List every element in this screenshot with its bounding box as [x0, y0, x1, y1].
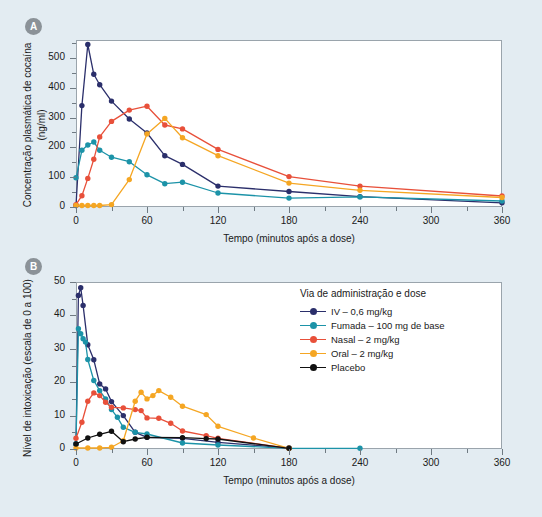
y-tick-major — [70, 58, 76, 59]
data-point — [204, 436, 209, 441]
panel-a: A Concentração plasmática de cocaína (ng… — [0, 0, 542, 256]
x-tick-label: 300 — [413, 215, 449, 226]
y-tick-label: 0 — [31, 200, 65, 211]
data-point — [156, 416, 161, 421]
y-tick-label: 10 — [31, 409, 65, 420]
legend-item-label: Placebo — [331, 362, 365, 373]
y-tick-label: 100 — [31, 170, 65, 181]
data-point — [138, 408, 143, 413]
legend-item-oral[interactable]: Oral – 2 mg/kg — [300, 346, 445, 360]
data-point — [162, 153, 167, 158]
data-point — [357, 188, 362, 193]
x-tick-minor — [396, 207, 397, 211]
x-tick-major — [218, 207, 219, 213]
data-point — [79, 420, 84, 425]
y-tick-minor — [72, 432, 76, 433]
data-point — [144, 131, 149, 136]
y-tick-label: 500 — [31, 51, 65, 62]
data-point — [91, 203, 96, 208]
x-tick-minor — [325, 449, 326, 453]
legend-item-label: Oral – 2 mg/kg — [331, 348, 393, 359]
y-tick-major — [70, 282, 76, 283]
y-tick-minor — [72, 162, 76, 163]
x-tick-major — [502, 449, 503, 455]
data-point — [91, 390, 96, 395]
x-tick-label: 120 — [200, 457, 236, 468]
y-tick-major — [70, 382, 76, 383]
data-point — [79, 203, 84, 208]
data-point — [180, 428, 185, 433]
x-tick-label: 60 — [129, 215, 165, 226]
data-point — [97, 445, 102, 450]
data-point — [215, 442, 220, 447]
legend-item-placebo[interactable]: Placebo — [300, 360, 445, 374]
data-point — [215, 424, 220, 429]
x-tick-major — [218, 449, 219, 455]
x-tick-label: 0 — [58, 215, 94, 226]
data-point — [138, 390, 143, 395]
data-point — [97, 388, 102, 393]
x-tick-minor — [325, 207, 326, 211]
data-point — [133, 399, 138, 404]
data-point — [144, 104, 149, 109]
data-point — [215, 153, 220, 158]
legend-swatch-icon — [300, 305, 326, 317]
x-tick-label: 180 — [271, 457, 307, 468]
data-point — [127, 159, 132, 164]
data-point — [180, 440, 185, 445]
y-tick-minor — [72, 73, 76, 74]
y-tick-major — [70, 147, 76, 148]
data-point — [97, 432, 102, 437]
y-tick-major — [70, 416, 76, 417]
data-point — [180, 126, 185, 131]
data-point — [76, 293, 81, 298]
data-point — [109, 155, 114, 160]
x-tick-major — [502, 207, 503, 213]
x-tick-major — [431, 449, 432, 455]
data-point — [85, 357, 90, 362]
data-point — [76, 326, 81, 331]
data-point — [204, 412, 209, 417]
data-point — [103, 386, 108, 391]
legend-title: Via de administração e dose — [300, 288, 445, 299]
data-point — [180, 135, 185, 140]
y-tick-minor — [72, 103, 76, 104]
legend-swatch-icon — [300, 361, 326, 373]
x-tick-minor — [183, 207, 184, 211]
y-tick-minor — [72, 299, 76, 300]
data-point — [127, 177, 132, 182]
x-tick-label: 0 — [58, 457, 94, 468]
data-point — [180, 180, 185, 185]
y-tick-label: 0 — [31, 442, 65, 453]
data-point — [91, 72, 96, 77]
y-tick-label: 200 — [31, 140, 65, 151]
data-point — [162, 181, 167, 186]
data-point — [168, 421, 173, 426]
data-point — [133, 436, 138, 441]
panel-a-xlabel: Tempo (minutos após a dose) — [76, 233, 502, 244]
x-tick-minor — [183, 449, 184, 453]
x-tick-label: 120 — [200, 215, 236, 226]
data-point — [78, 331, 83, 336]
y-tick-minor — [72, 399, 76, 400]
x-tick-major — [76, 449, 77, 455]
legend-swatch-icon — [300, 319, 326, 331]
y-tick-major — [70, 88, 76, 89]
x-tick-label: 180 — [271, 215, 307, 226]
y-tick-minor — [72, 132, 76, 133]
x-tick-major — [360, 449, 361, 455]
legend-item-iv[interactable]: IV – 0,6 mg/kg — [300, 304, 445, 318]
data-point — [133, 430, 138, 435]
panel-b-xlabel: Tempo (minutos após a dose) — [76, 475, 502, 486]
data-point — [85, 176, 90, 181]
x-tick-minor — [467, 449, 468, 453]
legend-item-nasal[interactable]: Nasal – 2 mg/kg — [300, 332, 445, 346]
data-point — [80, 303, 85, 308]
y-tick-major — [70, 118, 76, 119]
x-tick-major — [147, 449, 148, 455]
legend-item-fumada[interactable]: Fumada – 100 mg de base — [300, 318, 445, 332]
legend: Via de administração e dose IV – 0,6 mg/… — [300, 288, 445, 374]
data-point — [121, 413, 126, 418]
data-point — [85, 203, 90, 208]
x-tick-minor — [396, 449, 397, 453]
